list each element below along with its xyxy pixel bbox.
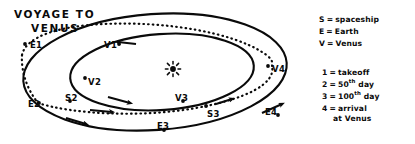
orbit-point-dot [266,64,270,68]
legend-step-suffix: day [361,92,380,101]
legend-key-text: Earth [335,27,359,36]
page-title-line-2: VENUS [31,22,79,34]
legend-step-equals: = [329,92,336,101]
legend-step-4-continuation: at Venus [333,115,372,123]
orbit-point-dot [117,42,121,46]
diagram-canvas: VOYAGE TO VENUS E1E2E3E4V1V2V3V4S2S3 S=s… [0,0,415,144]
orbit-point-dot [83,76,87,80]
orbit-point-label-v4: V4 [272,65,285,74]
orbit-point-label-e1: E1 [30,41,42,50]
legend-key-text: spaceship [335,15,379,24]
legend-step-ordinal-suffix: th [354,90,361,96]
legend-key-equals: = [327,15,334,24]
legend-step-1: 1=takeoff [322,69,370,77]
legend-step-equals: = [329,68,336,77]
legend-step-4: 4=arrival [322,105,367,113]
sun-starburst-icon [165,61,180,76]
orbit-point-label-e4: E4 [265,108,277,117]
legend-step-text: 50 [338,80,349,89]
legend-step-text: takeoff [338,68,370,77]
legend-key-s: S=spaceship [319,16,379,24]
orbit-point-label-v1: V1 [104,41,117,50]
orbit-point-label-v2: V2 [88,78,101,87]
orbit-point-dot [204,104,208,108]
legend-key-symbol: S [319,15,325,24]
legend-step-text: 100 [338,92,354,101]
legend-key-symbol: E [319,27,324,36]
orbit-point-dot [23,42,27,46]
legend-step-ordinal-suffix: th [349,78,356,84]
legend-step-equals: = [329,80,336,89]
legend-step-text: arrival [338,104,367,113]
venus-orbit-path [68,28,257,117]
orbit-point-label-e2: E2 [28,100,40,109]
legend-key-v: V=Venus [319,40,362,48]
legend-step-number: 4 [322,104,327,113]
legend-key-equals: = [326,27,333,36]
legend-step-number: 3 [322,92,327,101]
legend-step-equals: = [329,104,336,113]
legend-key-equals: = [327,39,334,48]
legend-step-2: 2=50th day [322,81,374,89]
orbit-point-label-e3: E3 [157,122,169,131]
page-title-line-1: VOYAGE TO [14,8,95,20]
orbit-point-label-v3: V3 [175,94,188,103]
legend-key-text: Venus [336,39,363,48]
legend-step-suffix: day [356,80,375,89]
legend-key-symbol: V [319,39,325,48]
orbit-point-label-s3: S3 [207,110,220,119]
legend-step-3: 3=100th day [322,93,380,101]
orbit-point-label-s2: S2 [65,94,78,103]
legend-step-number: 2 [322,80,327,89]
legend-step-number: 1 [322,68,327,77]
legend-key-e: E=Earth [319,28,359,36]
